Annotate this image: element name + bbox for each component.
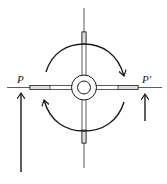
diagram-canvas — [0, 0, 167, 184]
top-spoke-sleeve — [82, 32, 86, 44]
hub-inner-ring — [78, 81, 91, 94]
central-hub — [72, 75, 97, 100]
left-spoke-sleeve — [30, 86, 50, 90]
label-p-prime: P' — [142, 74, 151, 85]
label-p: P — [17, 74, 24, 85]
bottom-spoke-sleeve — [82, 130, 86, 143]
right-spoke-sleeve — [118, 86, 138, 90]
